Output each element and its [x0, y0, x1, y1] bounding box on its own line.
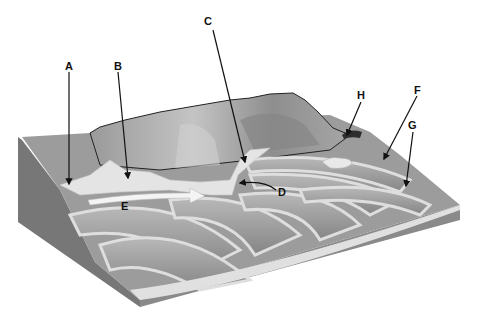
label-b: B — [114, 60, 122, 72]
glacial-landscape-diagram: A B C D E F G H — [0, 0, 478, 317]
label-f: F — [414, 84, 421, 96]
label-h: H — [357, 89, 365, 101]
label-a: A — [65, 60, 73, 72]
label-g: G — [408, 119, 417, 131]
label-d: D — [278, 186, 286, 198]
label-c: C — [204, 15, 212, 27]
label-e: E — [121, 200, 128, 212]
